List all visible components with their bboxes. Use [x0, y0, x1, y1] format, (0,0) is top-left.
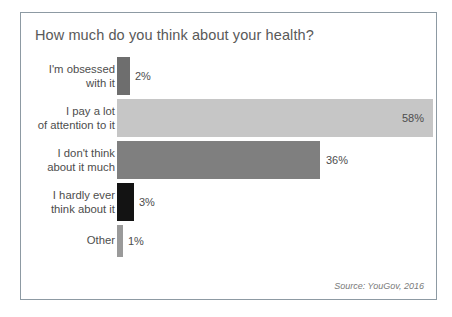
bar-category-label-line: Other — [0, 234, 115, 248]
bar-rect — [117, 57, 130, 95]
bar-category-label-line: about it much — [0, 161, 115, 175]
bar-track: 1% — [117, 225, 436, 257]
bar-category-label-line: with it — [0, 77, 115, 91]
bar-row: I'm obsessed with it 2% — [21, 57, 436, 95]
bar-category-label-line: I hardly ever — [0, 189, 115, 203]
bar-category-label: I hardly ever think about it — [0, 189, 115, 216]
bar-row: I pay a lot of attention to it 58% — [21, 99, 436, 137]
bar-rect — [117, 99, 433, 137]
bar-chart-plot-area: I'm obsessed with it 2% I pay a lot of a… — [21, 57, 436, 257]
bar-rect — [117, 225, 123, 257]
bar-track: 58% — [117, 99, 436, 137]
bar-rect — [117, 183, 134, 221]
bar-value-label: 1% — [128, 235, 144, 247]
chart-title: How much do you think about your health? — [35, 27, 314, 43]
bar-value-label: 36% — [326, 154, 348, 166]
bar-value-label: 3% — [139, 196, 155, 208]
bar-category-label: I'm obsessed with it — [0, 63, 115, 90]
bar-category-label: Other — [0, 234, 115, 248]
chart-frame: How much do you think about your health?… — [20, 12, 437, 300]
bar-track: 2% — [117, 57, 436, 95]
bar-row: I don't think about it much 36% — [21, 141, 436, 179]
bar-category-label-line: think about it — [0, 203, 115, 217]
bar-category-label-line: I'm obsessed — [0, 63, 115, 77]
source-attribution: Source: YouGov, 2016 — [334, 281, 424, 291]
bar-row: Other 1% — [21, 225, 436, 257]
bar-value-label: 58% — [402, 112, 424, 124]
bar-category-label: I don't think about it much — [0, 147, 115, 174]
bar-track: 36% — [117, 141, 436, 179]
bar-row: I hardly ever think about it 3% — [21, 183, 436, 221]
bar-category-label-line: I don't think — [0, 147, 115, 161]
bar-value-label: 2% — [135, 70, 151, 82]
bar-category-label-line: of attention to it — [0, 119, 115, 133]
bar-category-label-line: I pay a lot — [0, 105, 115, 119]
bar-category-label: I pay a lot of attention to it — [0, 105, 115, 132]
bar-track: 3% — [117, 183, 436, 221]
bar-rect — [117, 141, 320, 179]
